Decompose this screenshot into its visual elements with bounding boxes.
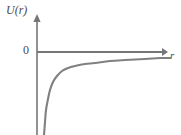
- y-axis-label: U(r): [6, 4, 27, 16]
- plot-canvas: [0, 0, 181, 135]
- y-axis: [33, 14, 40, 135]
- potential-energy-figure: U(r) r 0: [0, 0, 181, 135]
- y-axis-arrowhead-icon: [33, 14, 40, 22]
- x-axis-arrowhead-icon: [162, 48, 168, 56]
- y-axis-zero-tick-label: 0: [23, 44, 29, 56]
- x-axis-label: r: [170, 50, 174, 61]
- x-axis: [37, 48, 168, 56]
- potential-curve: [44, 58, 170, 135]
